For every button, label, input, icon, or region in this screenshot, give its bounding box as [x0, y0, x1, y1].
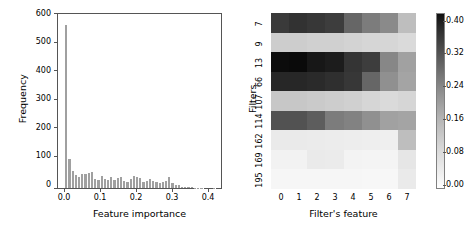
- heatmap-cell: [325, 52, 343, 72]
- heatmap-plot-area: [271, 13, 416, 189]
- heatmap-cell: [325, 33, 343, 53]
- heatmap-cell: [271, 13, 289, 33]
- heatmap-cell: [325, 150, 343, 170]
- histogram-plot-area: [57, 13, 222, 189]
- heatmap-cell: [398, 111, 416, 131]
- heatmap-cell: [271, 91, 289, 111]
- heatmap-cell: [362, 150, 380, 170]
- figure-canvas: Frequency 600 500 400 300 200 100 0 0.0 …: [0, 0, 476, 231]
- histogram-y-tick-mark: [54, 70, 57, 71]
- histogram-bars: [58, 14, 221, 188]
- colorbar-tick: 0.32: [446, 49, 464, 57]
- histogram-y-tick-mark: [54, 13, 57, 14]
- heatmap-x-tick: 1: [290, 194, 308, 202]
- heatmap-cell: [398, 150, 416, 170]
- heatmap-cell: [271, 52, 289, 72]
- histogram-y-tick: 600: [31, 10, 51, 18]
- heatmap-cell: [380, 130, 398, 150]
- histogram-y-tick: 400: [31, 67, 51, 75]
- colorbar-tick: 0.24: [446, 82, 464, 90]
- heatmap-cell: [307, 13, 325, 33]
- heatmap-cell: [289, 91, 307, 111]
- heatmap-cell: [325, 72, 343, 92]
- heatmap-cell: [344, 91, 362, 111]
- heatmap-cell: [344, 52, 362, 72]
- histogram-x-tick-mark: [100, 189, 101, 192]
- heatmap-x-axis-label: Filter's feature: [271, 209, 416, 219]
- heatmap-cell: [307, 91, 325, 111]
- heatmap-x-tick: 2: [308, 194, 326, 202]
- heatmap-cell: [362, 91, 380, 111]
- histogram-y-tick: 200: [31, 124, 51, 132]
- heatmap-colorbar: [436, 13, 445, 189]
- heatmap-cell: [307, 130, 325, 150]
- heatmap-cell: [398, 72, 416, 92]
- heatmap-x-tick: 6: [380, 194, 398, 202]
- heatmap-cell: [398, 91, 416, 111]
- heatmap-cell: [362, 169, 380, 189]
- histogram-x-tick-mark: [136, 189, 137, 192]
- heatmap-cell: [380, 33, 398, 53]
- heatmap-cell: [344, 169, 362, 189]
- heatmap-cell: [307, 72, 325, 92]
- heatmap-cell: [362, 13, 380, 33]
- heatmap-cell: [362, 72, 380, 92]
- heatmap-cell: [362, 130, 380, 150]
- heatmap-cell: [362, 52, 380, 72]
- heatmap-y-tick: 195: [256, 163, 264, 197]
- colorbar-tick: 0.16: [446, 115, 464, 123]
- heatmap-cell: [344, 150, 362, 170]
- histogram-y-tick-mark: [54, 99, 57, 100]
- heatmap-cell: [289, 72, 307, 92]
- heatmap-cell: [398, 52, 416, 72]
- histogram-x-tick-mark: [172, 189, 173, 192]
- heatmap-cell: [325, 130, 343, 150]
- histogram-y-tick-mark: [54, 42, 57, 43]
- heatmap-cell: [344, 111, 362, 131]
- histogram-y-tick: 500: [31, 38, 51, 46]
- heatmap-cell: [344, 130, 362, 150]
- histogram-x-tick: 0.0: [56, 194, 72, 202]
- colorbar-tick: 0.00: [446, 181, 464, 189]
- heatmap-cell: [325, 169, 343, 189]
- heatmap-cell: [307, 111, 325, 131]
- heatmap-cell: [307, 150, 325, 170]
- heatmap-cell: [362, 111, 380, 131]
- histogram-x-tick-mark: [64, 189, 65, 192]
- heatmap-cell: [380, 169, 398, 189]
- heatmap-cell: [289, 150, 307, 170]
- heatmap-x-tick: 5: [362, 194, 380, 202]
- histogram-x-tick: 0.3: [164, 194, 180, 202]
- heatmap-cell: [398, 169, 416, 189]
- heatmap-cell: [307, 52, 325, 72]
- heatmap-cell: [289, 33, 307, 53]
- heatmap-cell: [325, 91, 343, 111]
- histogram-y-tick-mark: [54, 127, 57, 128]
- heatmap-cell: [307, 169, 325, 189]
- heatmap-cell: [380, 52, 398, 72]
- histogram-x-tick: 0.4: [200, 194, 216, 202]
- heatmap-cell: [271, 169, 289, 189]
- heatmap-cell: [289, 130, 307, 150]
- histogram-x-tick-mark: [208, 189, 209, 192]
- heatmap-x-tick: 7: [398, 194, 416, 202]
- histogram-y-axis-label: Frequency: [18, 64, 28, 134]
- heatmap-cell: [289, 52, 307, 72]
- heatmap-cell: [289, 13, 307, 33]
- heatmap-cell: [289, 169, 307, 189]
- histogram-panel: Frequency 600 500 400 300 200 100 0 0.0 …: [0, 0, 238, 231]
- heatmap-cell: [271, 150, 289, 170]
- heatmap-cell: [325, 111, 343, 131]
- histogram-y-tick: 300: [31, 95, 51, 103]
- heatmap-cell: [307, 33, 325, 53]
- heatmap-cell: [344, 13, 362, 33]
- histogram-y-tick: 0: [31, 181, 51, 189]
- heatmap-cell: [380, 150, 398, 170]
- heatmap-x-tick: 0: [272, 194, 290, 202]
- histogram-y-tick: 100: [31, 152, 51, 160]
- heatmap-grid: [271, 13, 416, 189]
- histogram-x-tick: 0.2: [128, 194, 144, 202]
- histogram-y-tick-mark: [54, 188, 57, 189]
- heatmap-x-tick: 4: [344, 194, 362, 202]
- colorbar-tick: 0.08: [446, 148, 464, 156]
